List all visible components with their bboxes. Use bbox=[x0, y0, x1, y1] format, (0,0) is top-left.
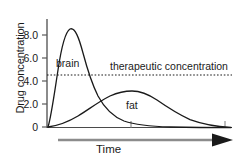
therapeutic-concentration-label: therapeutic concentration bbox=[110, 60, 228, 72]
y-tick-label-6: 6.0 bbox=[6, 52, 38, 64]
y-axis-title: Drug concentration bbox=[14, 8, 26, 128]
drug-concentration-chart: Drug concentration 8.0 6.0 4.0 2.0 0 bra… bbox=[0, 0, 240, 158]
y-axis-ticks bbox=[42, 35, 47, 127]
fat-curve-label: fat bbox=[126, 99, 138, 111]
x-axis-title: Time bbox=[96, 143, 121, 155]
y-tick-label-8: 8.0 bbox=[6, 29, 38, 41]
y-tick-label-2: 2.0 bbox=[6, 98, 38, 110]
brain-curve-label: brain bbox=[56, 57, 79, 69]
brain-curve bbox=[48, 29, 231, 128]
fat-curve bbox=[48, 91, 231, 127]
time-arrow bbox=[58, 134, 233, 147]
y-tick-label-4: 4.0 bbox=[6, 75, 38, 87]
y-tick-label-0: 0 bbox=[6, 121, 38, 133]
